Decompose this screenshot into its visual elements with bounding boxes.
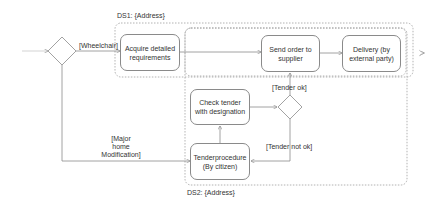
tender-ok-guard: [Tender ok] <box>272 84 307 92</box>
main-decision-diamond[interactable] <box>48 37 76 65</box>
ds2-label: DS2: {Address} <box>187 189 235 197</box>
tender-not-ok-flow <box>251 119 290 161</box>
check-tender-node[interactable]: Check tender with designation <box>190 89 250 125</box>
exit-arrow-icon <box>419 50 423 56</box>
tender-decision-diamond[interactable] <box>278 95 302 119</box>
major-guard-line2: home <box>96 143 146 151</box>
ds1-label: DS1: {Address} <box>117 12 165 20</box>
delivery-node[interactable]: Delivery (by external party) <box>342 35 401 72</box>
tender-not-ok-guard: [Tender not ok] <box>266 143 312 151</box>
major-guard-line3: Modification] <box>96 151 146 159</box>
acquire-requirements-node[interactable]: Acquire detailed requirements <box>120 34 180 71</box>
wheelchair-guard: [Wheelchair] <box>79 42 118 50</box>
major-guard-line1: [Major <box>96 135 146 143</box>
tenderprocedure-node[interactable]: Tenderprocedure (By citizen) <box>190 143 250 180</box>
major-modification-guard: [Major home Modification] <box>96 135 146 159</box>
send-order-node[interactable]: Send order to supplier <box>261 35 320 72</box>
